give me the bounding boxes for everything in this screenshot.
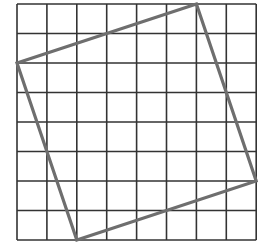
- grid-diagram: [0, 0, 258, 243]
